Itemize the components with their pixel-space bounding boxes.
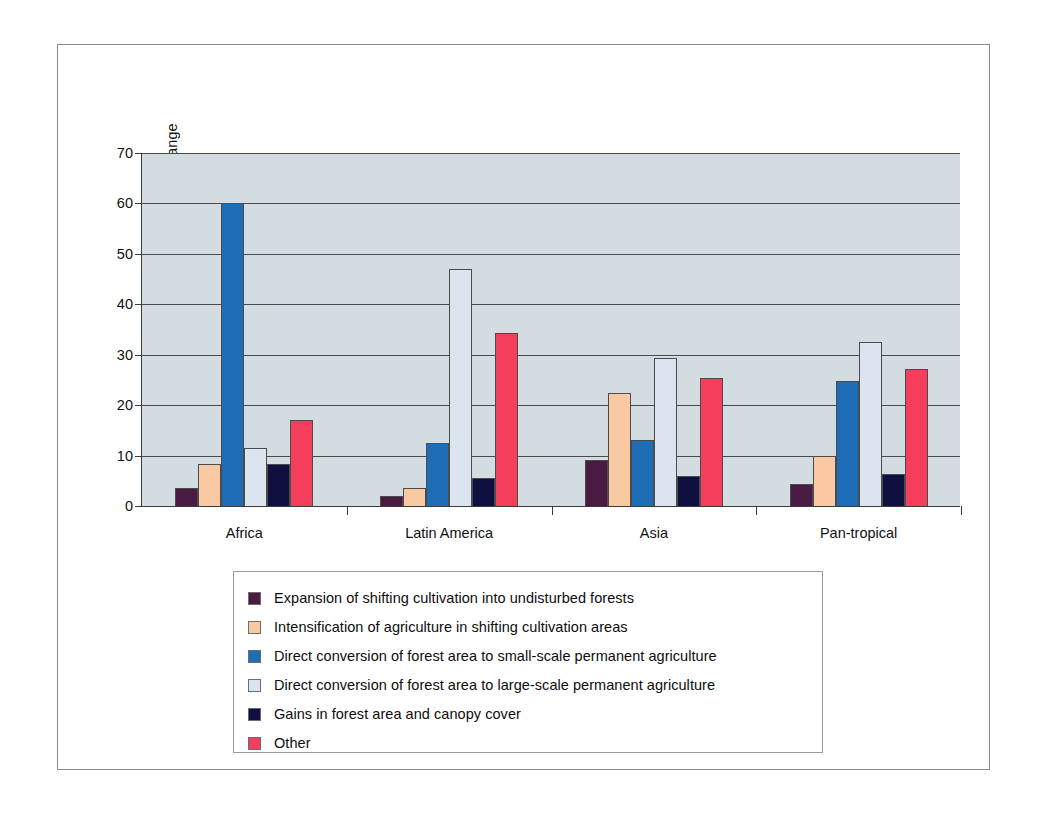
legend-item-label: Other <box>274 735 311 751</box>
y-axis-tick-mark <box>135 355 142 356</box>
bar[interactable] <box>403 488 426 506</box>
legend-item[interactable]: Gains in forest area and canopy cover <box>248 700 822 728</box>
plot-area: 010203040506070AfricaLatin AmericaAsiaPa… <box>141 153 960 507</box>
bar-group: Asia <box>552 153 757 506</box>
x-axis-group-separator <box>347 506 348 515</box>
bar[interactable] <box>426 443 449 506</box>
bar[interactable] <box>221 203 244 506</box>
bar[interactable] <box>677 476 700 506</box>
legend-color-swatch-icon <box>248 650 261 663</box>
figure-frame: Percentage of total area change 01020304… <box>57 44 990 770</box>
bar[interactable] <box>700 378 723 506</box>
bar[interactable] <box>175 488 198 506</box>
y-axis-tick-mark <box>135 254 142 255</box>
x-axis-group-label: Africa <box>226 525 263 541</box>
y-axis-tick-label: 30 <box>117 347 133 363</box>
legend-item[interactable]: Other <box>248 729 822 757</box>
bar[interactable] <box>495 333 518 506</box>
bar[interactable] <box>380 496 403 506</box>
y-axis-tick-label: 20 <box>117 397 133 413</box>
y-axis-tick-label: 60 <box>117 195 133 211</box>
legend-color-swatch-icon <box>248 679 261 692</box>
chart-legend: Expansion of shifting cultivation into u… <box>233 571 823 753</box>
bar[interactable] <box>631 440 654 506</box>
y-axis-tick-mark <box>135 456 142 457</box>
legend-color-swatch-icon <box>248 737 261 750</box>
legend-color-swatch-icon <box>248 621 261 634</box>
legend-color-swatch-icon <box>248 708 261 721</box>
legend-item[interactable]: Expansion of shifting cultivation into u… <box>248 584 822 612</box>
bar-group: Pan-tropical <box>756 153 961 506</box>
legend-item-label: Direct conversion of forest area to larg… <box>274 677 715 693</box>
bar-group: Latin America <box>347 153 552 506</box>
x-axis-group-label: Pan-tropical <box>820 525 897 541</box>
legend-item-label: Direct conversion of forest area to smal… <box>274 648 717 664</box>
legend-item-label: Expansion of shifting cultivation into u… <box>274 590 634 606</box>
bar[interactable] <box>790 484 813 506</box>
y-axis-tick-mark <box>135 203 142 204</box>
bar[interactable] <box>882 474 905 506</box>
legend-item-label: Gains in forest area and canopy cover <box>274 706 521 722</box>
legend-item[interactable]: Intensification of agriculture in shifti… <box>248 613 822 641</box>
y-axis-tick-label: 70 <box>117 145 133 161</box>
y-axis-tick-label: 0 <box>125 498 133 514</box>
bar[interactable] <box>859 342 882 506</box>
bar[interactable] <box>472 478 495 506</box>
bar[interactable] <box>585 460 608 506</box>
x-axis-group-separator <box>756 506 757 515</box>
x-axis-group-separator <box>552 506 553 515</box>
bar[interactable] <box>244 448 267 506</box>
y-axis-tick-label: 50 <box>117 246 133 262</box>
y-axis-tick-mark <box>135 153 142 154</box>
bar-group: Africa <box>142 153 347 506</box>
legend-item[interactable]: Direct conversion of forest area to smal… <box>248 642 822 670</box>
x-axis-end-tick <box>961 506 962 515</box>
bar[interactable] <box>198 464 221 506</box>
bar[interactable] <box>905 369 928 506</box>
bar[interactable] <box>654 358 677 506</box>
bar[interactable] <box>813 456 836 506</box>
legend-color-swatch-icon <box>248 592 261 605</box>
x-axis-group-label: Latin America <box>405 525 493 541</box>
y-axis-tick-mark <box>135 304 142 305</box>
legend-item-label: Intensification of agriculture in shifti… <box>274 619 628 635</box>
bar[interactable] <box>449 269 472 506</box>
legend-item[interactable]: Direct conversion of forest area to larg… <box>248 671 822 699</box>
bar[interactable] <box>608 393 631 506</box>
bar[interactable] <box>290 420 313 506</box>
y-axis-tick-mark <box>135 506 142 507</box>
y-axis-tick-mark <box>135 405 142 406</box>
bar[interactable] <box>267 464 290 506</box>
x-axis-group-label: Asia <box>640 525 668 541</box>
bar[interactable] <box>836 381 859 506</box>
y-axis-tick-label: 10 <box>117 448 133 464</box>
y-axis-tick-label: 40 <box>117 296 133 312</box>
